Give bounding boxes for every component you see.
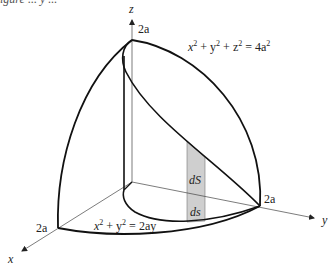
z-axis-label: z bbox=[128, 2, 134, 16]
x-intercept-label: 2a bbox=[36, 221, 48, 235]
cylinder-equation: x2 + y2 = 2ay bbox=[93, 218, 156, 233]
sphere-arc-xz bbox=[58, 40, 132, 228]
y-axis bbox=[132, 182, 314, 218]
x-axis bbox=[22, 182, 132, 251]
sphere-equation: x2 + y2 + z2 = 4a2 bbox=[187, 39, 270, 54]
y-axis-label: y bbox=[321, 213, 328, 227]
ds-label: ds bbox=[190, 205, 201, 219]
dS-label: dS bbox=[189, 173, 201, 187]
z-intercept-label: 2a bbox=[138, 22, 150, 36]
x-axis-label: x bbox=[7, 252, 14, 266]
sphere-cylinder-diagram: z y x 2a 2a 2a x2 + y2 + z2 = 4a2 x2 + y… bbox=[0, 0, 332, 270]
y-intercept-label: 2a bbox=[264, 192, 276, 206]
